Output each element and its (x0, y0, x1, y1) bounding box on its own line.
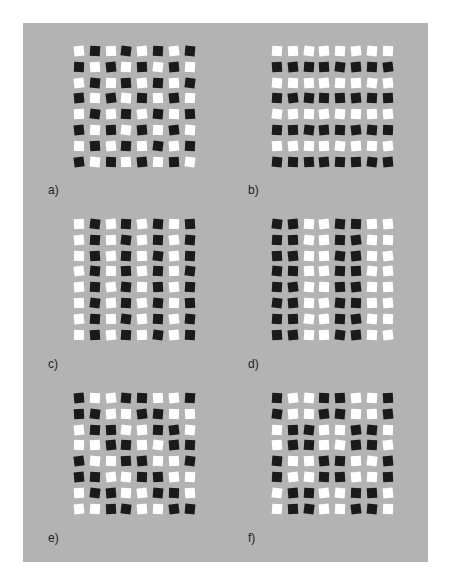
dark-square (168, 440, 179, 451)
light-square (335, 77, 346, 88)
light-square (303, 109, 314, 120)
dark-square (121, 234, 132, 245)
dark-square (351, 488, 361, 498)
light-square (287, 140, 298, 151)
dark-square (335, 125, 346, 136)
dark-square (367, 62, 378, 73)
dark-square (335, 408, 346, 419)
light-square (335, 109, 346, 120)
light-square (74, 282, 85, 293)
light-square (382, 235, 392, 245)
dark-square (90, 282, 101, 293)
light-square (105, 471, 116, 482)
light-square (382, 314, 392, 324)
panel-f-grid (272, 393, 402, 523)
light-square (351, 409, 361, 419)
dark-square (367, 440, 378, 451)
light-square (105, 329, 116, 340)
dark-square (153, 298, 164, 309)
light-square (303, 219, 314, 230)
dark-square (153, 266, 164, 277)
dark-square (169, 488, 179, 498)
light-square (367, 141, 378, 152)
light-square (105, 456, 115, 466)
light-square (303, 298, 314, 309)
dark-square (288, 266, 298, 276)
light-square (137, 329, 148, 340)
light-square (382, 77, 393, 88)
dark-square (287, 487, 298, 498)
light-square (272, 77, 283, 88)
dark-square (319, 456, 330, 467)
light-square (89, 456, 100, 467)
light-square (169, 266, 180, 277)
light-square (105, 408, 116, 419)
dark-square (335, 472, 346, 483)
dark-square (184, 503, 195, 514)
light-square (121, 424, 132, 435)
light-square (137, 109, 148, 120)
dark-square (272, 125, 283, 136)
light-square (287, 392, 298, 403)
dark-square (153, 219, 164, 230)
dark-square (105, 156, 115, 166)
dark-square (153, 46, 164, 57)
dark-square (288, 156, 298, 166)
dark-square (89, 329, 100, 340)
light-square (74, 141, 84, 151)
dark-square (303, 156, 314, 167)
light-square (319, 440, 330, 451)
dark-square (121, 250, 132, 261)
light-square (121, 472, 132, 483)
panel-f-label: f) (248, 531, 255, 545)
light-square (152, 61, 163, 72)
dark-square (288, 235, 299, 246)
light-square (137, 46, 148, 57)
dark-square (335, 282, 346, 293)
dark-square (319, 472, 329, 482)
light-square (74, 440, 84, 450)
dark-square (335, 456, 346, 467)
light-square (335, 487, 346, 498)
dark-square (153, 408, 164, 419)
dark-square (121, 77, 132, 88)
light-square (89, 61, 100, 72)
light-square (74, 424, 85, 435)
light-square (366, 472, 377, 483)
light-square (382, 219, 393, 230)
dark-square (184, 456, 195, 467)
light-square (319, 313, 330, 324)
light-square (303, 77, 314, 88)
dark-square (89, 487, 100, 498)
light-square (105, 298, 116, 309)
dark-square (153, 487, 164, 498)
dark-square (271, 218, 282, 229)
light-square (152, 440, 163, 451)
light-square (89, 156, 100, 167)
dark-square (74, 393, 85, 404)
light-square (382, 266, 393, 277)
dark-square (184, 266, 195, 277)
dark-square (351, 250, 362, 261)
dark-square (168, 61, 179, 72)
panel-e-grid (74, 393, 204, 523)
dark-square (288, 503, 299, 514)
dark-square (184, 393, 195, 404)
light-square (272, 140, 283, 151)
dark-square (89, 424, 100, 435)
dark-square (382, 393, 393, 404)
dark-square (137, 408, 148, 419)
light-square (105, 140, 116, 151)
dark-square (272, 156, 283, 167)
light-square (319, 282, 329, 292)
dark-square (89, 46, 100, 57)
light-square (105, 109, 116, 120)
dark-square (272, 329, 283, 340)
light-square (351, 77, 362, 88)
dark-square (272, 234, 283, 245)
light-square (303, 266, 314, 277)
light-square (90, 393, 101, 404)
light-square (105, 314, 116, 325)
dark-square (351, 93, 362, 104)
dark-square (121, 456, 132, 467)
